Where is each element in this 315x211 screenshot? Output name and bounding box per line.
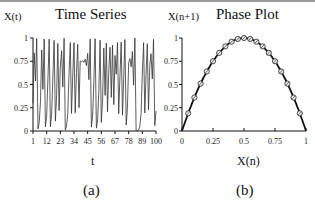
chart-b-xtick-label: 0.5	[239, 137, 249, 146]
chart-b-ytick-label: 0.75	[164, 57, 178, 66]
chart-a-xtick-label: 56	[97, 137, 105, 146]
chart-a-xtick-label: 100	[150, 137, 162, 146]
chart-a-ylabel: X(t)	[4, 11, 22, 22]
chart-a-ytick-label: 0.75	[14, 57, 28, 66]
chart-a-ytick-label: 0.5	[18, 81, 28, 90]
chart-b-xtick-label: 0.25	[206, 137, 220, 146]
chart-a-xtick-label: 23	[56, 137, 64, 146]
chart-b-xtick-label: 0.75	[268, 137, 282, 146]
chart-a-xtick-label: 45	[84, 137, 92, 146]
chart-b-xtick-label: 1	[304, 137, 308, 146]
chart-a-caption: (a)	[83, 182, 100, 199]
chart-a-xtick-label: 89	[138, 137, 146, 146]
chart-a-xlabel: t	[91, 154, 94, 169]
chart-b-ytick-label: 1	[174, 34, 178, 43]
charts-canvas: 00.250.50.7511122334455667788910000.250.…	[0, 0, 315, 211]
chart-a-xtick-label: 1	[31, 137, 35, 146]
chart-a-ytick-label: 0.25	[14, 104, 28, 113]
chart-b-xlabel: X(n)	[237, 154, 260, 169]
chart-a-xtick-label: 67	[111, 137, 119, 146]
chart-b-ytick-label: 0.5	[168, 81, 178, 90]
chart-a-title: Time Series	[55, 6, 127, 23]
chart-b-caption: (b)	[236, 182, 254, 199]
chart-a-series-line	[33, 38, 156, 131]
chart-b-title: Phase Plot	[216, 6, 279, 23]
chart-b-ytick-label: 0.25	[164, 104, 178, 113]
chart-a-ytick-label: 0	[24, 127, 28, 136]
chart-a-ytick-label: 1	[24, 34, 28, 43]
chart-b-xtick-label: 0	[180, 137, 184, 146]
chart-a-xtick-label: 78	[125, 137, 133, 146]
chart-b-ytick-label: 0	[174, 127, 178, 136]
chart-b-ylabel: X(n+1)	[168, 11, 199, 22]
chart-a-xtick-label: 12	[43, 137, 51, 146]
chart-a-xtick-label: 34	[70, 137, 78, 146]
